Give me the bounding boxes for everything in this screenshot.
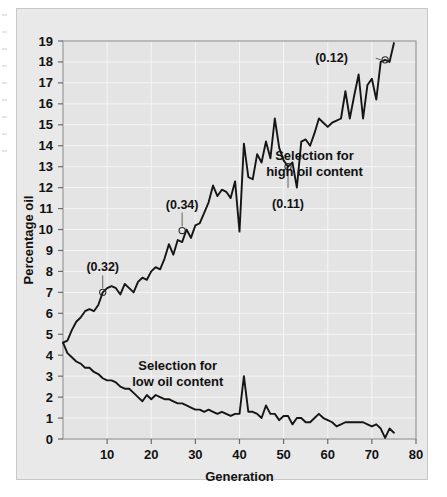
- margin-dash: [2, 133, 7, 135]
- x-axis-tick-labels: 1020304050607080: [100, 447, 423, 462]
- y-tick-label-19: 19: [39, 34, 53, 49]
- x-tick-label-40: 40: [232, 447, 246, 462]
- figure-panel: 012345678910111213141516171819 102030405…: [16, 8, 428, 480]
- figure-root: 012345678910111213141516171819 102030405…: [0, 0, 447, 497]
- y-tick-label-8: 8: [46, 264, 53, 279]
- margin-dash: [2, 14, 7, 16]
- y-tick-label-10: 10: [39, 222, 53, 237]
- y-tick-label-7: 7: [46, 285, 53, 300]
- x-tick-label-80: 80: [409, 447, 423, 462]
- y-tick-label-16: 16: [39, 96, 53, 111]
- y-tick-label-0: 0: [46, 432, 53, 447]
- margin-dash: [2, 82, 7, 84]
- y-tick-label-14: 14: [39, 138, 54, 153]
- y-tick-label-3: 3: [46, 369, 53, 384]
- annotation-label: (0.32): [86, 260, 119, 274]
- y-tick-label-6: 6: [46, 306, 53, 321]
- margin-dash: [2, 99, 7, 101]
- x-axis-title: Generation: [205, 469, 274, 481]
- y-axis-title: Percentage oil: [21, 196, 36, 285]
- series-label-high-oil: Selection forhigh oil content: [266, 148, 363, 179]
- y-tick-label-18: 18: [39, 54, 53, 69]
- annotation-label: (0.12): [315, 51, 348, 65]
- margin-dash: [2, 65, 7, 67]
- y-axis-ticks: [58, 41, 63, 439]
- x-tick-label-20: 20: [144, 447, 158, 462]
- x-tick-label-60: 60: [321, 447, 335, 462]
- y-tick-label-15: 15: [39, 117, 53, 132]
- y-tick-label-9: 9: [46, 243, 53, 258]
- y-tick-label-2: 2: [46, 390, 53, 405]
- x-axis-ticks: [107, 439, 416, 444]
- page-margin-artifact: [0, 14, 10, 164]
- margin-dash: [2, 31, 7, 33]
- y-axis-tick-labels: 012345678910111213141516171819: [39, 34, 54, 447]
- margin-dash: [2, 48, 7, 50]
- x-tick-label-70: 70: [365, 447, 379, 462]
- x-tick-label-50: 50: [276, 447, 290, 462]
- x-tick-label-30: 30: [188, 447, 202, 462]
- y-tick-label-5: 5: [46, 327, 53, 342]
- y-tick-label-4: 4: [46, 348, 54, 363]
- x-tick-label-10: 10: [100, 447, 114, 462]
- annotation-label: (0.34): [166, 198, 199, 212]
- y-tick-label-11: 11: [39, 201, 53, 216]
- annotation-label: (0.11): [272, 197, 304, 211]
- series-label-low-oil: Selection forlow oil content: [132, 358, 224, 389]
- margin-dash: [2, 150, 7, 152]
- oil-percentage-chart: 012345678910111213141516171819 102030405…: [17, 9, 429, 481]
- margin-dash: [2, 116, 7, 118]
- y-tick-label-1: 1: [46, 411, 53, 426]
- y-tick-label-13: 13: [39, 159, 53, 174]
- y-tick-label-12: 12: [39, 180, 53, 195]
- y-tick-label-17: 17: [39, 75, 53, 90]
